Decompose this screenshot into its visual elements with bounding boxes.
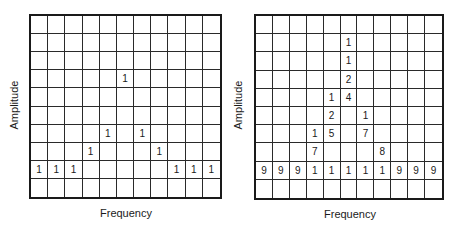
grid-cell: [168, 143, 185, 161]
grid-cell: [151, 16, 168, 34]
grid-cell: [31, 107, 48, 125]
grid-cell: [186, 107, 203, 125]
x-axis-label: Frequency: [324, 208, 376, 220]
grid-cell: [290, 107, 307, 125]
grid-cell: 1: [374, 162, 391, 180]
grid-cell: [65, 52, 82, 70]
grid-cell: [186, 16, 203, 34]
grid-cell: [117, 125, 134, 143]
grid-cell: [408, 71, 425, 89]
grid-cell: [168, 70, 185, 88]
left-panel: Amplitude 11111111111 Frequency: [0, 0, 228, 229]
grid-cell: [65, 34, 82, 52]
grid-cell: [117, 179, 134, 197]
grid-cell: [273, 52, 290, 70]
grid-cell: [324, 16, 341, 34]
grid-cell: [307, 89, 324, 107]
grid-cell: 9: [273, 162, 290, 180]
grid-cell: [186, 143, 203, 161]
grid-cell: [134, 70, 151, 88]
grid-cell: [341, 125, 358, 143]
grid-cell: [100, 107, 117, 125]
grid-cell: 1: [186, 161, 203, 179]
grid-cell: [83, 88, 100, 106]
grid-cell: [65, 179, 82, 197]
grid-cell: [256, 71, 273, 89]
grid-cell: [425, 52, 442, 70]
grid-cell: [117, 143, 134, 161]
grid-cell: [307, 71, 324, 89]
grid-cell: [391, 89, 408, 107]
grid-cell: [290, 89, 307, 107]
grid-cell: [134, 161, 151, 179]
grid-cell: 1: [307, 162, 324, 180]
grid-cell: [391, 16, 408, 34]
grid-cell: [31, 70, 48, 88]
grid-cell: 2: [341, 71, 358, 89]
grid-cell: [168, 52, 185, 70]
grid-cell: [357, 180, 374, 198]
grid-cell: [203, 179, 220, 197]
grid-cell: [408, 34, 425, 52]
grid-cell: [273, 16, 290, 34]
grid-cell: 9: [290, 162, 307, 180]
grid-cell: 1: [31, 161, 48, 179]
grid-cell: [151, 34, 168, 52]
grid-cell: 1: [168, 161, 185, 179]
grid-cell: [290, 71, 307, 89]
grid-cell: [168, 179, 185, 197]
grid-cell: [256, 125, 273, 143]
grid-cell: [65, 125, 82, 143]
grid-cell: [341, 16, 358, 34]
grid-cell: 4: [341, 89, 358, 107]
grid-cell: [203, 16, 220, 34]
grid-cell: 1: [117, 70, 134, 88]
grid-cell: [83, 34, 100, 52]
grid-cell: [425, 107, 442, 125]
grid-cell: [357, 52, 374, 70]
grid-cell: [357, 143, 374, 161]
grid-cell: [357, 71, 374, 89]
grid-cell: 1: [151, 143, 168, 161]
grid-cell: [341, 180, 358, 198]
grid-cell: 1: [324, 89, 341, 107]
grid-cell: [31, 125, 48, 143]
grid-cell: 5: [324, 125, 341, 143]
grid-cell: [151, 88, 168, 106]
grid-cell: 9: [425, 162, 442, 180]
grid-cell: [151, 70, 168, 88]
grid-cell: [100, 70, 117, 88]
grid-cell: [186, 34, 203, 52]
grid-cell: [425, 125, 442, 143]
grid-cell: 8: [374, 143, 391, 161]
grid-cell: [168, 34, 185, 52]
grid-cell: [408, 89, 425, 107]
grid-cell: 1: [324, 162, 341, 180]
grid-cell: [65, 70, 82, 88]
grid-cell: [324, 34, 341, 52]
grid-cell: [48, 88, 65, 106]
grid-cell: [186, 52, 203, 70]
grid-cell: [391, 107, 408, 125]
grid-cell: 1: [134, 125, 151, 143]
grid-cell: 1: [341, 34, 358, 52]
grid-cell: [408, 52, 425, 70]
grid-cell: 1: [65, 161, 82, 179]
grid-cell: [186, 88, 203, 106]
grid-cell: [425, 180, 442, 198]
grid-cell: [48, 52, 65, 70]
grid-cell: [134, 16, 151, 34]
grid-cell: [48, 179, 65, 197]
grid-cell: [408, 16, 425, 34]
grid-cell: [391, 34, 408, 52]
grid-cell: [290, 143, 307, 161]
grid-cell: [425, 71, 442, 89]
grid-cell: [100, 143, 117, 161]
grid-cell: [168, 125, 185, 143]
grid-cell: [168, 16, 185, 34]
grid-cell: [151, 161, 168, 179]
grid-cell: [273, 143, 290, 161]
grid-cell: [391, 52, 408, 70]
grid-cell: [48, 143, 65, 161]
grid-cell: 1: [341, 52, 358, 70]
